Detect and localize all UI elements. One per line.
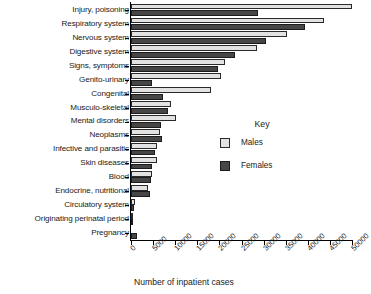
category-label-row: Originating perinatal period (0, 214, 129, 224)
category-tick (125, 191, 129, 192)
x-tick-label: 50000 (350, 232, 370, 252)
category-label-row: Nervous system (0, 33, 129, 43)
category-label-row: Neoplasms (0, 130, 129, 140)
category-tick (125, 108, 129, 109)
category-label-row: Skin diseases (0, 158, 129, 168)
bar-females (131, 177, 151, 183)
category-tick (125, 205, 129, 206)
bar-females (131, 233, 137, 239)
y-axis-line (130, 2, 131, 241)
category-label-row: Respiratory system (0, 19, 129, 29)
category-tick (125, 219, 129, 220)
category-tick (125, 233, 129, 234)
bar-males (131, 4, 352, 10)
legend-item-males: Males (214, 138, 310, 148)
bar-males (131, 143, 157, 149)
category-label-row: Injury, poisoning (0, 5, 129, 15)
legend-label-females: Females (241, 162, 272, 170)
legend-title: Key (214, 120, 310, 129)
bar-females (131, 24, 305, 30)
bar-females (131, 52, 235, 58)
category-label: Nervous system (72, 34, 129, 42)
bar-males (131, 101, 171, 107)
category-label: Signs, symptoms (69, 62, 129, 70)
bar-males (131, 18, 324, 24)
category-label-row: Endocrine, nutritional (0, 186, 129, 196)
category-label: Musculo-skeletal (70, 104, 129, 112)
legend: Key Males Females (214, 120, 310, 184)
category-tick (125, 66, 129, 67)
x-axis-title: Number of inpatient cases (0, 278, 368, 287)
bar-females (131, 108, 168, 114)
category-label-row: Signs, symptoms (0, 61, 129, 71)
category-tick (125, 149, 129, 150)
category-label: Neoplasms (89, 131, 129, 139)
bar-females (131, 10, 258, 16)
bar-females (131, 219, 133, 225)
bar-females (131, 66, 218, 72)
category-label: Genito-urinary (79, 76, 129, 84)
category-label-row: Congenital (0, 89, 129, 99)
bar-males (131, 87, 211, 93)
bar-females (131, 136, 162, 142)
category-label: Skin diseases (80, 159, 129, 167)
bar-males (131, 59, 225, 65)
bar-females (131, 205, 134, 211)
category-label: Originating perinatal period (35, 215, 129, 223)
category-tick (125, 94, 129, 95)
category-label: Circulatory system (64, 201, 129, 209)
category-label: Infective and parasitic (53, 145, 129, 153)
legend-swatch-males (220, 138, 230, 148)
bar-females (131, 38, 266, 44)
bar-males (131, 213, 133, 219)
category-label: Injury, poisoning (72, 6, 129, 14)
category-label: Digestive system (69, 48, 129, 56)
category-axis: Injury, poisoningRespiratory systemNervo… (0, 0, 129, 246)
category-label: Pregnancy (91, 229, 129, 237)
category-tick (125, 24, 129, 25)
category-tick (125, 52, 129, 53)
category-label-row: Blood (0, 172, 129, 182)
category-tick (125, 10, 129, 11)
bar-females (131, 94, 163, 100)
category-label-row: Circulatory system (0, 200, 129, 210)
bar-males (131, 199, 135, 205)
bar-males (131, 157, 157, 163)
legend-label-males: Males (241, 139, 263, 147)
bar-females (131, 80, 152, 86)
bar-females (131, 164, 152, 170)
category-label: Endocrine, nutritional (55, 187, 129, 195)
category-label: Respiratory system (62, 20, 129, 28)
legend-swatch-females (220, 161, 230, 171)
bar-males (131, 73, 221, 79)
category-tick (125, 163, 129, 164)
bar-males (131, 45, 257, 51)
category-label-row: Musculo-skeletal (0, 103, 129, 113)
bar-males (131, 171, 152, 177)
category-label-row: Genito-urinary (0, 75, 129, 85)
category-tick (125, 122, 129, 123)
category-label-row: Digestive system (0, 47, 129, 57)
bar-males (131, 129, 160, 135)
category-tick (125, 135, 129, 136)
category-label-row: Pregnancy (0, 228, 129, 238)
legend-item-females: Females (214, 161, 310, 171)
category-tick (125, 80, 129, 81)
category-tick (125, 38, 129, 39)
bar-females (131, 122, 161, 128)
category-label-row: Mental disorders (0, 117, 129, 127)
category-label: Mental disorders (71, 117, 129, 125)
bar-males (131, 115, 176, 121)
bar-males (131, 31, 287, 37)
category-label-row: Infective and parasitic (0, 144, 129, 154)
bar-females (131, 191, 150, 197)
x-tick-label: 0 (129, 244, 137, 252)
bar-males (131, 185, 148, 191)
category-tick (125, 177, 129, 178)
bar-females (131, 150, 155, 156)
category-label: Congenital (91, 90, 129, 98)
